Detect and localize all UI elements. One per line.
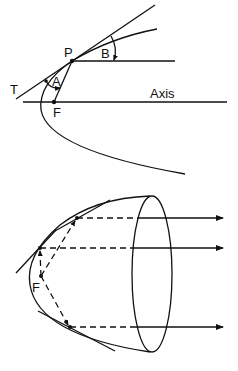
focus-ray-lower [41,276,68,325]
angle-a-label: A [52,74,61,89]
lower-tangent [38,311,115,351]
focus-label-bottom: F [32,280,40,295]
middle-tangent [16,230,56,273]
angle-b-arc [111,36,115,60]
focus-marker-bottom [39,274,43,278]
angle-b-label: B [101,46,110,61]
point-p-label: P [64,45,73,60]
angle-a-marker [44,79,48,83]
reflection-point-upper [75,216,79,220]
focus-marker [52,100,56,104]
axis-label: Axis [150,86,175,101]
upper-tangent [55,200,110,231]
reflection-point-middle [38,246,42,250]
tangent-line [16,5,155,99]
reflection-point-lower [68,325,72,329]
parabola-figure: T P A B F Axis [10,5,227,174]
aperture-ellipse [132,196,172,352]
paraboloid-figure: F [16,196,223,352]
focus-ray-middle [40,251,41,276]
diagram-canvas: T P A B F Axis F [0,0,238,371]
focus-label: F [53,105,61,120]
tangent-label: T [10,82,18,97]
